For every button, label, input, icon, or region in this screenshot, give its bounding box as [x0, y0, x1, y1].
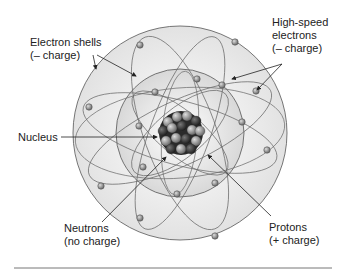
electron	[212, 233, 218, 239]
electron	[264, 147, 270, 153]
electron	[137, 215, 143, 221]
electron	[212, 180, 218, 186]
protons-label: Protons (+ charge)	[269, 221, 319, 247]
electron	[219, 82, 225, 88]
electron	[137, 42, 143, 48]
electron	[86, 104, 92, 110]
electron	[98, 183, 104, 189]
electron	[136, 123, 142, 129]
electron	[174, 191, 180, 197]
nucleus-label: Nucleus	[18, 131, 58, 144]
neutrons-label: Neutrons (no charge)	[64, 222, 120, 248]
electron	[152, 89, 158, 95]
electron	[239, 119, 245, 125]
electron	[194, 76, 200, 82]
electron	[140, 164, 146, 170]
electron-shells-label: Electron shells (– charge)	[30, 36, 102, 62]
high-speed-electrons-label: High-speed electrons (– charge)	[272, 16, 328, 55]
electron	[232, 39, 238, 45]
